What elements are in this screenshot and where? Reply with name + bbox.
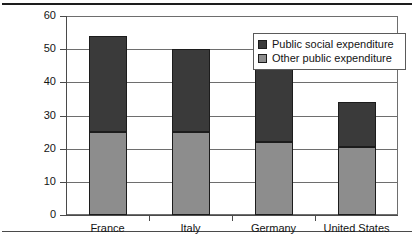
bar-segment-other-italy[interactable] (172, 132, 210, 215)
bar-italy[interactable] (172, 49, 210, 215)
bar-segment-other-france[interactable] (89, 132, 127, 215)
legend-item-other-public-expenditure[interactable]: Other public expenditure (258, 51, 401, 65)
bar-segment-social-france[interactable] (89, 36, 127, 132)
y-axis-line (66, 16, 67, 216)
x-tick-1 (149, 216, 150, 221)
legend-swatch-icon-other (258, 54, 267, 63)
x-tick-label-italy: Italy (149, 222, 232, 234)
x-tick-label-united-states: United States (315, 222, 398, 234)
chart-legend: Public social expenditure Other public e… (253, 33, 406, 70)
y-tick-label-0: 0 (16, 209, 56, 220)
y-tick-label-40: 40 (16, 76, 56, 87)
bar-segment-other-united-states[interactable] (338, 147, 376, 215)
legend-label-other: Other public expenditure (272, 52, 392, 64)
bar-segment-social-united-states[interactable] (338, 102, 376, 147)
y-tick-label-50: 50 (16, 43, 56, 54)
x-tick-label-germany: Germany (232, 222, 315, 234)
bar-segment-other-germany[interactable] (255, 142, 293, 215)
y-tick-label-20: 20 (16, 143, 56, 154)
x-tick-3 (315, 216, 316, 221)
bar-united-states[interactable] (338, 102, 376, 215)
legend-item-public-social-expenditure[interactable]: Public social expenditure (258, 37, 401, 51)
bar-segment-social-italy[interactable] (172, 49, 210, 132)
y-tick-label-10: 10 (16, 176, 56, 187)
legend-swatch-icon-social (258, 40, 267, 49)
bar-france[interactable] (89, 36, 127, 215)
bar-germany[interactable] (255, 57, 293, 215)
x-tick-label-france: France (66, 222, 149, 234)
y-tick-label-30: 30 (16, 110, 56, 121)
x-tick-2 (232, 216, 233, 221)
y-tick-label-60: 60 (16, 10, 56, 21)
chart-figure: 0102030405060 FranceItalyGermanyUnited S… (0, 0, 414, 242)
legend-label-social: Public social expenditure (272, 38, 394, 50)
top-rule (2, 3, 412, 5)
